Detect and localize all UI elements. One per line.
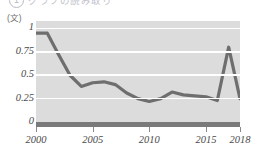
data-series-line — [36, 21, 240, 122]
x-axis-tick-mark — [206, 127, 207, 132]
x-axis-tick-label: 2015 — [196, 134, 217, 145]
x-axis-tick-label: 2000 — [26, 134, 47, 145]
zero-baseline-axis — [36, 122, 240, 127]
x-axis-tick-mark — [93, 127, 94, 132]
gridline — [36, 98, 240, 100]
line-chart: (文) 00.250.50.751 20002005201020152018 — [0, 0, 258, 165]
gridline — [36, 51, 240, 53]
x-axis-tick-label: 2018 — [230, 134, 251, 145]
y-axis-tick-label: 0.75 — [1, 45, 34, 56]
x-axis-tick-label: 2010 — [139, 134, 160, 145]
y-axis-tick-label: 0.5 — [1, 68, 34, 79]
x-axis-tick-mark — [240, 127, 241, 132]
y-axis-tick-label: 0.25 — [1, 92, 34, 103]
x-axis-tick-label: 2005 — [82, 134, 103, 145]
plot-area — [36, 21, 240, 122]
gridline — [36, 74, 240, 76]
gridline — [36, 28, 240, 30]
x-axis-tick-mark — [36, 127, 37, 132]
y-axis-tick-label: 0 — [1, 115, 34, 126]
x-axis-tick-mark — [149, 127, 150, 132]
y-axis-tick-label: 1 — [1, 21, 34, 32]
